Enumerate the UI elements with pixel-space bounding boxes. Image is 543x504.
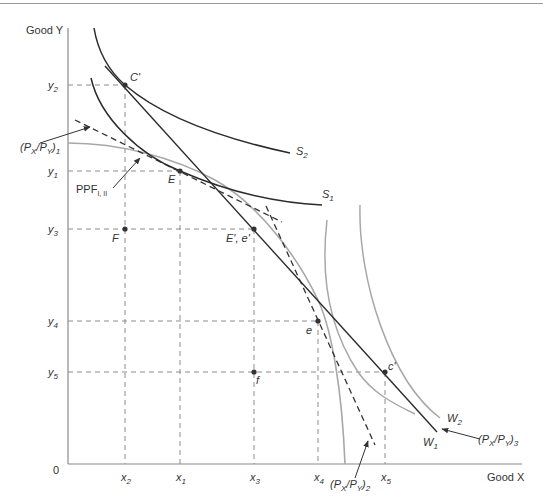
tick-x1: x1 [175, 471, 186, 486]
point-c-prime-lower [382, 369, 387, 374]
tick-y3: y3 [47, 223, 59, 238]
diagram-canvas: Good Y Good X 0 y2 y1 y3 y4 y5 x2 x1 x3 … [0, 0, 543, 504]
ppf-curve [68, 143, 345, 464]
label-f-upper: F [112, 232, 120, 244]
point-e-lower [315, 318, 320, 323]
label-ppf: PPFI, II [76, 183, 107, 197]
point-e [177, 168, 182, 173]
arrow-price-3 [442, 429, 480, 439]
label-e-lower: e [306, 324, 312, 336]
label-price-3: (PX/PY)3 [478, 433, 519, 448]
point-f-upper [122, 226, 127, 231]
label-price-2: (PX/PY)2 [330, 478, 371, 493]
guide-lines [68, 85, 385, 464]
s1-curve [91, 78, 322, 205]
s2-curve [94, 28, 290, 153]
w2-curve [360, 205, 440, 418]
x-axis-label: Good X [487, 471, 525, 483]
tick-y4: y4 [47, 315, 59, 330]
tick-y5: y5 [47, 366, 59, 381]
tick-y1: y1 [47, 165, 58, 180]
label-e-prime-e-prime: E', e' [226, 232, 251, 244]
label-c-prime: C' [130, 71, 141, 83]
origin-label: 0 [53, 464, 59, 476]
y-axis-label: Good Y [26, 24, 64, 36]
label-f-lower: f [256, 374, 260, 386]
label-c-prime-lower: c' [388, 360, 397, 372]
tick-x2: x2 [120, 471, 132, 486]
label-w1: W1 [423, 436, 438, 451]
price-line-3 [105, 66, 437, 432]
tick-x5: x5 [380, 471, 392, 486]
point-e-prime [251, 226, 256, 231]
label-price-1: (PX/PY)1 [20, 141, 60, 156]
arrow-price-1 [40, 127, 90, 143]
label-s1: S1 [322, 188, 334, 203]
arrow-price-2 [355, 441, 368, 478]
tick-y2: y2 [47, 79, 59, 94]
label-w2: W2 [447, 412, 462, 427]
tick-x3: x3 [249, 471, 261, 486]
point-c-prime [122, 82, 127, 87]
tick-x4: x4 [313, 471, 325, 486]
label-e: E [168, 173, 176, 185]
label-s2: S2 [296, 145, 308, 160]
trade-diagram: Good Y Good X 0 y2 y1 y3 y4 y5 x2 x1 x3 … [0, 0, 543, 504]
arrow-ppf [113, 158, 140, 188]
